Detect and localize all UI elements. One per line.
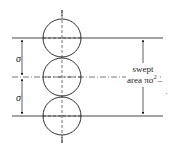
swept-area-diagram: σ σ swept area πσ2– ' <box>0 0 176 151</box>
sigma-label-top: σ <box>16 53 22 64</box>
swept-label: swept <box>133 64 154 74</box>
sigma-label-bottom: σ <box>16 92 22 103</box>
stray-mark: ' <box>166 92 167 98</box>
swept-area-label: area πσ2– <box>127 74 163 85</box>
